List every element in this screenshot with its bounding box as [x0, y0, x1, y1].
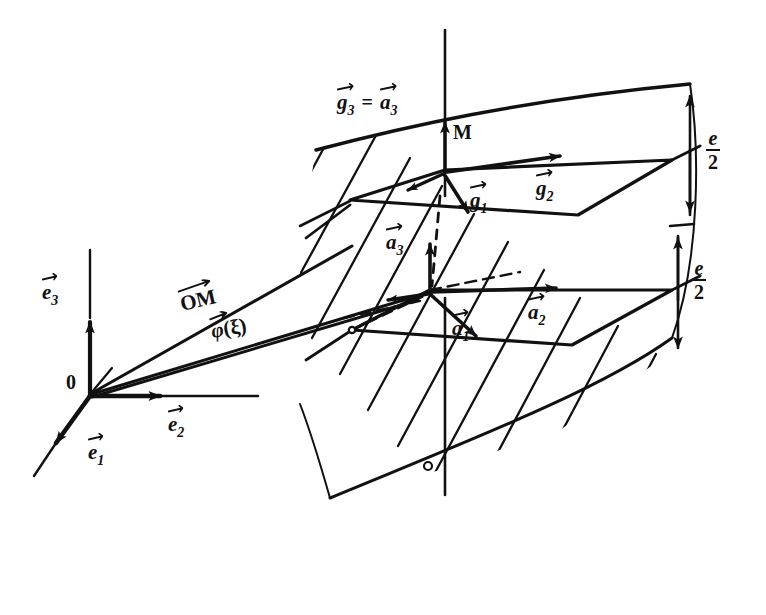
label-g1-subscript: 1 [481, 201, 488, 216]
label-g1: g1 [470, 190, 488, 211]
label-g2-subscript: 2 [547, 189, 554, 204]
vector-accent-arrow [470, 181, 488, 190]
label-a3: a3 [386, 232, 404, 253]
label-g2: g2 [536, 178, 554, 199]
label-e3-symbol: e [42, 280, 51, 304]
label-a3-subscript: 3 [397, 243, 404, 258]
label-a3-symbol: a [386, 230, 397, 254]
half-thickness-denominator: 2 [692, 282, 706, 302]
label-a1: a1 [452, 318, 470, 339]
label-g3-subscript: 3 [348, 103, 355, 118]
label-origin: 0 [66, 372, 76, 392]
label-a1-symbol: a [452, 316, 463, 340]
normal-axis-hidden [432, 196, 440, 286]
half-thickness-denominator: 2 [706, 152, 720, 172]
mid-surface-tick [670, 224, 694, 226]
label-a2: a2 [528, 302, 546, 323]
label-a2-symbol: a [528, 300, 539, 324]
label-point-M: M [453, 122, 472, 142]
vector-accent-arrow [337, 83, 355, 92]
vector-accent-arrow [88, 433, 104, 442]
figure-canvas: g3 = a3 M g2 g1 [0, 0, 766, 615]
label-g2-symbol: g [536, 176, 547, 200]
label-e3-subscript: 3 [51, 293, 58, 308]
vector-accent-arrow [528, 293, 546, 302]
vector-accent-arrow [452, 309, 470, 318]
label-e1-symbol: e [88, 440, 97, 464]
label-e2-subscript: 2 [177, 425, 184, 440]
half-thickness-numerator: e [706, 128, 720, 148]
label-g1-symbol: g [470, 188, 481, 212]
label-e3: e3 [42, 282, 58, 303]
edge-nodes [349, 327, 432, 470]
label-a1-subscript: 1 [463, 329, 470, 344]
label-half-thickness-upper: e 2 [706, 128, 720, 172]
label-e2: e2 [168, 414, 184, 435]
label-equals: = [362, 91, 373, 113]
vector-accent-arrow [380, 83, 398, 92]
vector-accent-arrow [42, 273, 58, 282]
label-a3-subscript: 3 [390, 103, 397, 118]
ray-OM [92, 292, 430, 394]
vector-accent-arrow [536, 169, 554, 178]
label-a2-subscript: 2 [539, 313, 546, 328]
ray-phi-xi [92, 300, 418, 397]
vector-accent-arrow [168, 405, 184, 414]
half-thickness-numerator: e [692, 258, 706, 278]
vector-accent-arrow [386, 223, 404, 232]
label-a3-symbol: a [380, 90, 391, 114]
label-g3-symbol: g [337, 90, 348, 114]
label-e1: e1 [88, 442, 104, 463]
label-e2-symbol: e [168, 412, 177, 436]
label-half-thickness-lower: e 2 [692, 258, 706, 302]
label-g3-equals-a3: g3 = a3 [337, 92, 397, 113]
label-e1-subscript: 1 [97, 453, 104, 468]
